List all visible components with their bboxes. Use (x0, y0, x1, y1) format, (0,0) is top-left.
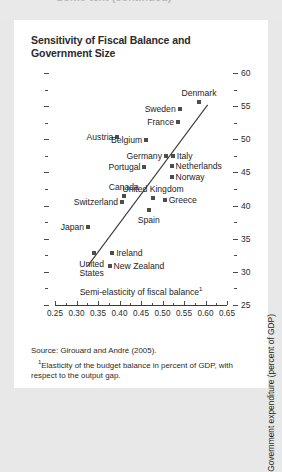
figure-card: Sensitivity of Fiscal Balance and Govern… (14, 20, 268, 388)
y-tick-label: 50 (241, 134, 250, 144)
x-tick (120, 301, 121, 305)
y-tick-right (233, 139, 238, 140)
source-footnote-block: Source: Girouard and André (2005). 1Elas… (31, 346, 257, 381)
y-tick-label: 40 (241, 201, 250, 211)
data-point-marker[interactable] (163, 198, 167, 202)
y-tick-right (233, 106, 238, 107)
data-point-marker[interactable] (197, 100, 201, 104)
y-tick-right-minor (234, 189, 237, 190)
figure-title: Sensitivity of Fiscal Balance and Govern… (31, 34, 241, 59)
x-tick-minor (152, 303, 153, 306)
data-point-label: Greece (169, 195, 197, 204)
data-point-marker[interactable] (120, 200, 124, 204)
y-tick-right (233, 172, 238, 173)
y-tick-left (44, 272, 49, 273)
data-point-marker[interactable] (171, 154, 175, 158)
x-tick (163, 301, 164, 305)
x-tick (55, 301, 56, 305)
data-point-label: Norway (176, 173, 205, 182)
y-tick-label: 60 (241, 68, 250, 78)
y-tick-left-minor (45, 156, 48, 157)
y-tick-left (44, 139, 49, 140)
data-point-label: Spain (138, 216, 160, 225)
x-tick (77, 301, 78, 305)
data-point-label: Denmark (182, 89, 217, 98)
data-point-label: Switzerland (74, 198, 118, 207)
data-point-marker[interactable] (151, 196, 155, 200)
x-tick (141, 301, 142, 305)
y-tick-left (44, 239, 49, 240)
data-point-marker[interactable] (147, 208, 151, 212)
y-tick-right (233, 206, 238, 207)
y-tick-left-minor (45, 255, 48, 256)
x-tick-minor (173, 303, 174, 306)
x-tick (184, 301, 185, 305)
y-tick-left-minor (45, 90, 48, 91)
y-tick-left-minor (45, 123, 48, 124)
x-tick-minor (216, 303, 217, 306)
y-tick-right (233, 305, 238, 306)
x-tick-label: 0.65 (212, 309, 242, 318)
data-point-marker[interactable] (108, 264, 112, 268)
data-point-label: United Kingdom (122, 185, 183, 194)
x-tick (206, 301, 207, 305)
x-axis-line (55, 305, 227, 306)
y-tick-right-minor (234, 255, 237, 256)
x-tick-minor (87, 303, 88, 306)
data-point-marker[interactable] (144, 138, 148, 142)
data-point-label: Italy (177, 151, 193, 160)
data-point-marker[interactable] (92, 251, 96, 255)
data-point-label: France (147, 118, 174, 127)
data-point-marker[interactable] (110, 251, 114, 255)
x-tick-minor (66, 303, 67, 306)
x-axis-title-text: Semi-elasticity of fiscal balance (80, 287, 199, 297)
y-tick-left (44, 106, 49, 107)
data-point-marker[interactable] (142, 165, 146, 169)
data-point-marker[interactable] (178, 107, 182, 111)
y-tick-left (44, 206, 49, 207)
clipped-page-header: Some text (continued) (0, 0, 282, 20)
y-tick-left-minor (45, 189, 48, 190)
y-tick-left (44, 172, 49, 173)
data-point-label: Japan (61, 223, 84, 232)
y-tick-label: 55 (241, 101, 250, 111)
source-line: Source: Girouard and André (2005). (31, 346, 257, 357)
data-point-marker[interactable] (164, 154, 168, 158)
data-point-label: Belgium (111, 135, 142, 144)
y-tick-right-minor (234, 123, 237, 124)
data-point-marker[interactable] (170, 175, 174, 179)
y-tick-right (233, 239, 238, 240)
x-axis-footnote-marker: 1 (199, 286, 202, 292)
y-tick-right-minor (234, 222, 237, 223)
data-point-marker[interactable] (170, 164, 174, 168)
data-point-label: Ireland (116, 248, 142, 257)
scatter-plot: 25303540455055600.250.300.350.400.450.50… (14, 64, 268, 314)
data-point-label: Portugal (108, 163, 140, 172)
footnote-line: 1Elasticity of the budget balance in per… (31, 357, 257, 382)
data-point-label: Sweden (145, 104, 176, 113)
y-tick-left-minor (45, 222, 48, 223)
y-tick-right (233, 272, 238, 273)
y-tick-right-minor (234, 156, 237, 157)
y-axis-title: Government expenditure (percent of GDP) (256, 64, 270, 314)
footnote-text: Elasticity of the budget balance in perc… (31, 360, 233, 380)
x-tick-minor (130, 303, 131, 306)
x-tick (98, 301, 99, 305)
y-tick-left (44, 305, 49, 306)
data-point-label: UnitedStates (71, 260, 113, 278)
x-tick-minor (195, 303, 196, 306)
x-axis-title: Semi-elasticity of fiscal balance1 (14, 286, 268, 297)
y-tick-label: 30 (241, 267, 250, 277)
data-point-marker[interactable] (86, 225, 90, 229)
y-tick-label: 45 (241, 167, 250, 177)
y-tick-right (233, 73, 238, 74)
x-tick-minor (109, 303, 110, 306)
data-point-marker[interactable] (176, 120, 180, 124)
data-point-label: Netherlands (176, 162, 222, 171)
y-axis-title-text: Government expenditure (percent of GDP) (266, 314, 276, 472)
data-point-label: Austria (87, 133, 114, 142)
clipped-header-text: Some text (continued) (56, 0, 172, 3)
y-tick-label: 25 (241, 300, 250, 310)
data-point-label: New Zealand (114, 261, 165, 270)
data-point-label: Germany (127, 151, 162, 160)
